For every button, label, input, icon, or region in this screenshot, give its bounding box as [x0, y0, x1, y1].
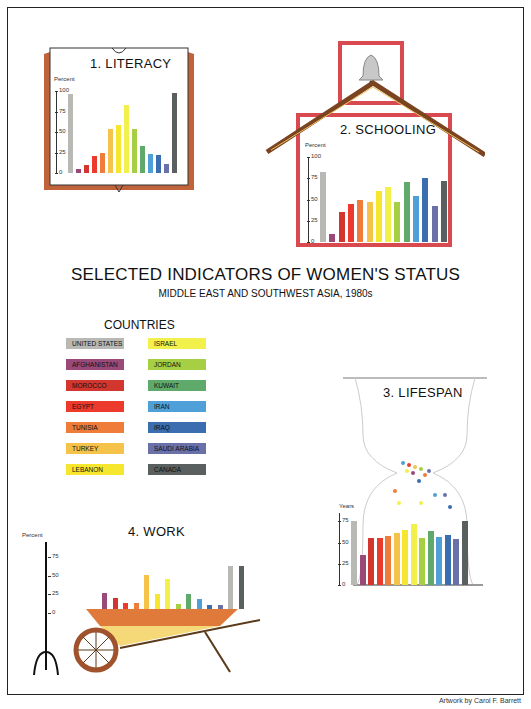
bar — [156, 155, 161, 173]
legend-item: JORDAN — [148, 359, 206, 370]
bar — [134, 603, 139, 609]
legend-item: EGYPT — [66, 401, 124, 412]
y-tick: 0 — [59, 169, 62, 175]
y-tick: 100 — [59, 87, 69, 93]
bar — [376, 191, 382, 242]
bar — [148, 154, 153, 173]
bar — [155, 594, 160, 609]
bar — [92, 156, 97, 173]
bar — [218, 605, 223, 610]
legend-item: UNITED STATES — [66, 338, 124, 349]
bar — [100, 153, 105, 173]
bar — [394, 202, 400, 242]
bar — [124, 105, 129, 173]
bar — [385, 187, 391, 242]
literacy-panel: 1. LITERACY Percent 1007550250 — [40, 44, 198, 194]
bar — [165, 579, 170, 609]
literacy-plot: 1007550250 — [68, 91, 180, 173]
bar — [368, 538, 374, 585]
lifespan-title: 3. LIFESPAN — [383, 385, 463, 400]
bar — [84, 165, 89, 173]
schooling-plot: 1007550250 — [320, 157, 450, 242]
bar — [116, 125, 121, 173]
y-tick: 50 — [59, 128, 66, 134]
bar — [351, 521, 357, 585]
bar — [176, 604, 181, 609]
bar — [186, 594, 191, 609]
bar — [441, 181, 447, 242]
y-tick: 25 — [342, 560, 349, 566]
bar — [239, 566, 244, 609]
bar — [367, 202, 373, 242]
work-panel: 4. WORK Percent 7550250 — [20, 520, 265, 685]
bar — [123, 603, 128, 609]
y-tick: 0 — [52, 609, 55, 615]
literacy-ylabel: Percent — [54, 76, 75, 82]
bar — [339, 212, 345, 242]
y-tick: 100 — [311, 153, 321, 159]
bar — [102, 593, 107, 610]
schooling-panel: 2. SCHOOLING Percent 1007550250 — [265, 40, 485, 255]
bar — [197, 599, 202, 610]
lifespan-ylabel: Years — [339, 503, 354, 509]
bar — [357, 200, 363, 243]
legend-item: IRAQ — [148, 422, 206, 433]
bar — [445, 535, 451, 585]
legend-item: MOROCCO — [66, 380, 124, 391]
bar — [402, 530, 408, 585]
y-axis — [339, 513, 340, 585]
work-plot — [102, 549, 252, 609]
bar — [76, 169, 81, 173]
main-title: SELECTED INDICATORS OF WOMEN'S STATUS — [0, 265, 531, 285]
schooling-ylabel: Percent — [305, 142, 326, 148]
y-tick: 25 — [311, 217, 318, 223]
bar — [68, 94, 73, 173]
legend-item: ISRAEL — [148, 338, 206, 349]
legend-title: COUNTRIES — [104, 318, 175, 332]
bar — [385, 536, 391, 585]
bar — [172, 93, 177, 173]
y-tick: 50 — [311, 196, 318, 202]
legend-item: SAUDI ARABIA — [148, 443, 206, 454]
bar — [140, 146, 145, 173]
bar — [108, 129, 113, 173]
legend-item: CANADA — [148, 464, 206, 475]
lifespan-plot: 7550250 — [351, 513, 471, 585]
legend-item: IRAN — [148, 401, 206, 412]
credit: Artwork by Carol F. Barrett — [439, 697, 521, 704]
bar — [411, 524, 417, 585]
legend-item: LEBANON — [66, 464, 124, 475]
bar — [164, 164, 169, 173]
legend-item: KUWAIT — [148, 380, 206, 391]
bar — [228, 566, 233, 609]
bar — [453, 539, 459, 585]
legend-item: TURKEY — [66, 443, 124, 454]
y-tick: 75 — [342, 517, 349, 523]
bar — [320, 172, 326, 242]
schooling-title: 2. SCHOOLING — [340, 122, 436, 137]
bar — [207, 605, 212, 609]
bar — [360, 555, 366, 585]
bar — [113, 598, 118, 609]
legend-item: TUNISIA — [66, 422, 124, 433]
y-tick: 75 — [52, 553, 59, 559]
y-tick: 50 — [342, 539, 349, 545]
bar — [436, 537, 442, 585]
y-tick: 0 — [342, 581, 345, 587]
bar — [144, 575, 149, 609]
y-tick: 25 — [59, 149, 66, 155]
lifespan-panel: 3. LIFESPAN Years 7550250 — [335, 375, 495, 590]
bar — [432, 206, 438, 242]
bar — [413, 196, 419, 242]
bar — [419, 538, 425, 585]
subtitle: MIDDLE EAST AND SOUTHWEST ASIA, 1980s — [0, 288, 531, 299]
y-tick: 25 — [52, 590, 59, 596]
y-tick: 50 — [52, 572, 59, 578]
y-tick: 0 — [311, 238, 314, 244]
y-tick: 75 — [311, 174, 318, 180]
bar — [404, 182, 410, 242]
literacy-title: 1. LITERACY — [90, 56, 171, 71]
bar — [428, 531, 434, 585]
bar — [348, 204, 354, 242]
y-tick: 75 — [59, 108, 66, 114]
